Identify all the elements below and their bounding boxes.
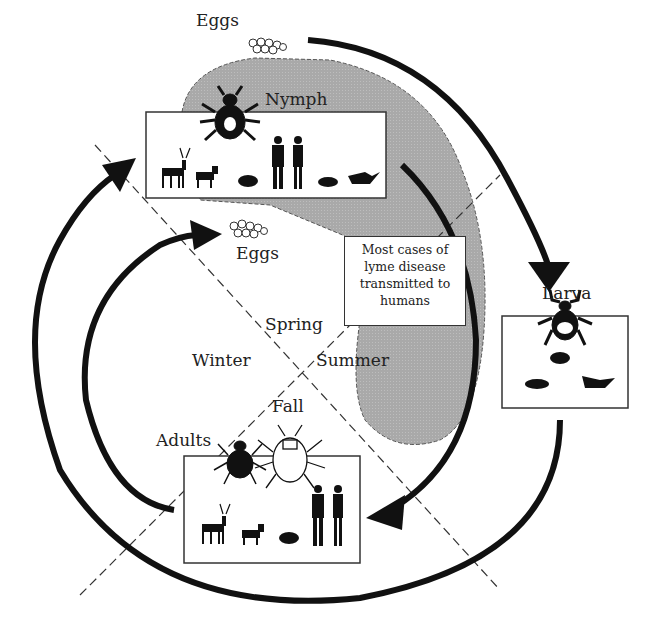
note-line-4: humans [345,292,465,309]
mouse-icon [525,379,549,389]
label-nymph: Nymph [265,89,327,109]
label-fall: Fall [272,396,304,416]
note-line-3: transmitted to [345,275,465,292]
lyme-transmission-note: Most cases of lyme disease transmitted t… [344,236,466,326]
arrowhead-nymph-icon [102,158,136,192]
label-eggs-top: Eggs [196,10,239,30]
egg-cluster-top-icon [249,38,287,54]
label-spring: Spring [265,314,323,334]
note-line-1: Most cases of [345,241,465,258]
label-summer: Summer [316,350,389,370]
label-adults: Adults [156,430,211,450]
label-winter: Winter [192,350,251,370]
tick-lifecycle-diagram: Eggs Nymph Eggs Larva Spring Winter Summ… [0,0,654,623]
rodent-icon [550,352,570,364]
opossum-icon [279,532,299,544]
mouse-icon [318,177,338,187]
arrowhead-adults-icon [366,495,405,530]
label-larva: Larva [542,283,591,303]
label-eggs-mid: Eggs [236,243,279,263]
note-line-2: lyme disease [345,258,465,275]
arrow-adults-to-eggs [85,235,196,510]
arrowhead-eggs-icon [190,220,222,250]
opossum-icon [238,175,258,187]
egg-cluster-mid-icon [230,220,268,238]
